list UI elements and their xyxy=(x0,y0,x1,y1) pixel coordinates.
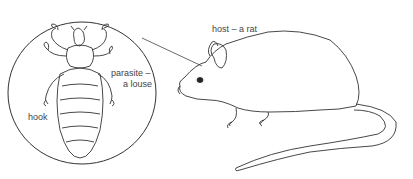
parasite-label-line2: a louse xyxy=(123,79,152,89)
hook-label: hook xyxy=(28,112,48,122)
rat-drawing xyxy=(178,31,396,171)
host-label: host – a rat xyxy=(212,24,257,34)
magnified-louse-circle xyxy=(8,22,202,164)
illustration xyxy=(0,0,413,179)
parasite-label-line1: parasite – xyxy=(111,68,151,78)
louse-drawing xyxy=(44,24,114,158)
parasite-host-diagram: host – a rat parasite – a louse hook xyxy=(0,0,413,179)
